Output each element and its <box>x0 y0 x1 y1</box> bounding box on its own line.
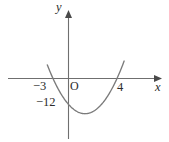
y-axis-arrowhead <box>65 10 72 18</box>
x-axis-label: x <box>155 81 161 94</box>
parabola-curve <box>47 61 124 114</box>
origin-label: O <box>70 80 79 92</box>
x-tick-label-4: 4 <box>117 81 123 94</box>
x-axis-group <box>8 75 162 82</box>
parabola-figure: −3 O 4 −12 y x <box>0 0 169 142</box>
y-axis-label: y <box>56 1 62 14</box>
y-axis-group <box>65 10 72 139</box>
x-tick-label-minus-3: −3 <box>33 80 46 93</box>
y-tick-label-minus-12: −12 <box>36 96 56 109</box>
coordinate-plane-svg <box>0 0 169 142</box>
